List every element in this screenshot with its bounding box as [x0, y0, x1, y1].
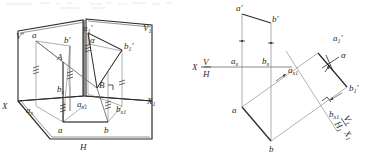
label-a-horiz-left: a: [58, 125, 63, 135]
label-point-A: A: [56, 52, 63, 62]
label-h-divider-bottom: H: [202, 69, 210, 79]
v-plane-outline: [18, 20, 83, 101]
right-orthographic-group: X V H a′ b′ ax bx ax1 bx1 a b: [191, 3, 362, 154]
label-a-x1-right: ax1: [288, 65, 298, 76]
figure-canvas: V′ a b′ a1′ α b1′ V1 A B bx X X1: [0, 0, 369, 161]
label-b-x-right: bx: [262, 56, 270, 67]
label-a-x-right: ax: [231, 56, 239, 67]
label-v-divider-top: V: [203, 57, 210, 67]
label-v-plane: V′: [16, 31, 25, 41]
label-a-front-right: a′: [236, 3, 244, 13]
label-a-front: a: [32, 30, 37, 40]
x-axis-left: [18, 96, 84, 101]
label-a-horiz-right: a: [232, 105, 237, 115]
alpha-angle-marker-right: [322, 55, 339, 72]
label-h-plane: H: [79, 142, 87, 152]
label-a1-front-right: a1′: [333, 33, 344, 44]
label-a-x1-left: ax1: [77, 99, 87, 110]
v-plane-inner-edge: [20, 23, 82, 34]
auxiliary-construction: [242, 51, 347, 141]
label-a-x-left: ax: [26, 105, 34, 116]
right-angle-marker-B: [108, 85, 113, 90]
label-alpha-right: α: [341, 50, 346, 60]
label-b-front: b′: [64, 35, 72, 45]
label-x-axis-right: X: [191, 62, 198, 72]
technical-drawing: V′ a b′ a1′ α b1′ V1 A B bx X X1: [0, 0, 369, 161]
label-a1-front: a1′: [83, 23, 94, 34]
label-x1-axis-right: X1: [341, 128, 355, 142]
x1-axis-left: [84, 96, 152, 101]
label-b1-front: b1′: [124, 41, 135, 52]
label-point-B: B: [99, 80, 105, 90]
label-b-front-right: b′: [272, 14, 280, 24]
left-pictorial-group: V′ a b′ a1′ α b1′ V1 A B bx X X1: [1, 19, 156, 152]
label-alpha-left: α: [90, 35, 95, 45]
equal-ticks-right: [239, 40, 274, 44]
label-b-horiz-right: b: [269, 144, 274, 154]
label-x1-axis-left: X1: [146, 96, 156, 107]
label-b-horiz-left: b: [104, 125, 109, 135]
plan-view-line-ab: [242, 107, 271, 141]
label-x-axis-left: X: [1, 101, 8, 111]
front-view-line-ab: [242, 14, 271, 23]
label-b1-front-right: b1′: [349, 83, 360, 94]
label-b-x1-right: bx1: [329, 109, 339, 120]
